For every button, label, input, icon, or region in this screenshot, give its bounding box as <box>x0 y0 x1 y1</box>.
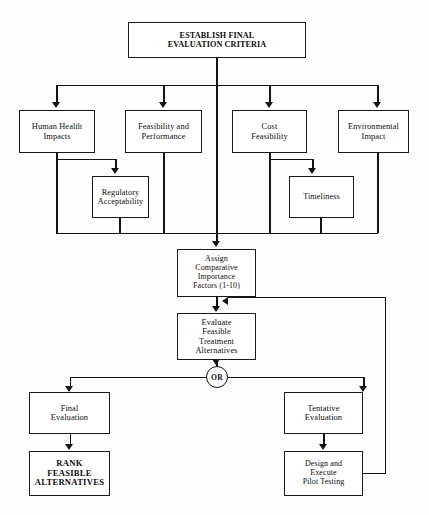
connector-drop-human-health <box>56 85 57 103</box>
node-establish-final-evaluation-criteria[interactable]: ESTABLISH FINALEVALUATION CRITERIA <box>128 22 306 58</box>
connector-drop-cost <box>269 85 270 103</box>
arrowhead-rank <box>65 444 73 450</box>
node-human-health-impacts[interactable]: Human HealthImpacts <box>19 110 95 153</box>
node-feasibility-and-performance[interactable]: Feasibility andPerformance <box>125 110 202 153</box>
connector-drop-feasibility <box>163 85 164 103</box>
connector-cost-to-timeliness <box>270 159 313 160</box>
flowchart-canvas: ESTABLISH FINALEVALUATION CRITERIA Human… <box>0 0 429 515</box>
node-environmental-impact[interactable]: EnvironmentalImpact <box>338 110 409 153</box>
node-timeliness[interactable]: Timeliness <box>289 176 354 218</box>
connector-cost-down <box>269 153 270 233</box>
node-environmental-label: EnvironmentalImpact <box>341 122 406 141</box>
node-or-gate[interactable]: OR <box>206 366 228 388</box>
connector-or-branch-right <box>228 377 364 378</box>
arrowhead-feasibility <box>159 102 167 108</box>
connector-feedback-riser <box>385 297 386 474</box>
connector-drop-environmental <box>377 85 378 103</box>
arrowhead-timeliness <box>308 168 316 174</box>
node-design-execute-label: Design andExecutePilot Testing <box>287 460 360 487</box>
node-feasibility-label: Feasibility andPerformance <box>128 122 199 141</box>
arrowhead-human-health <box>52 102 60 108</box>
node-rank-feasible-alternatives[interactable]: RANKFEASIBLEALTERNATIVES <box>29 451 110 496</box>
node-cost-label: CostFeasibility <box>235 122 304 141</box>
arrowhead-design <box>319 444 327 450</box>
node-tentative-evaluation-label: TentativeEvaluation <box>287 404 360 423</box>
connector-or-branch-left <box>70 377 206 378</box>
node-human-health-label: Human HealthImpacts <box>22 122 92 141</box>
node-regulatory-label: RegulatoryAcceptability <box>95 188 146 206</box>
node-design-execute-pilot-testing[interactable]: Design andExecutePilot Testing <box>284 451 363 496</box>
arrowhead-regulatory <box>111 168 119 174</box>
connector-establish-stem <box>216 58 217 85</box>
node-evaluate-feasible-treatment-alternatives[interactable]: EvaluateFeasibleTreatmentAlternatives <box>177 313 256 360</box>
node-regulatory-acceptability[interactable]: RegulatoryAcceptability <box>92 176 149 218</box>
node-assign-label: AssignComparativeImportanceFactors (1-10… <box>180 255 253 291</box>
connector-feasibility-down <box>163 153 164 233</box>
node-evaluate-label: EvaluateFeasibleTreatmentAlternatives <box>180 318 253 356</box>
node-or-label: OR <box>211 373 223 382</box>
arrowhead-cost <box>265 102 273 108</box>
connector-human-health-to-regulatory <box>57 159 116 160</box>
connector-feedback-out <box>363 473 386 474</box>
connector-human-health-down <box>56 153 57 233</box>
connector-center-passthrough <box>216 85 217 233</box>
connector-feedback-return <box>228 297 385 298</box>
node-assign-comparative-importance-factors[interactable]: AssignComparativeImportanceFactors (1-10… <box>177 249 256 297</box>
node-rank-label: RANKFEASIBLEALTERNATIVES <box>32 459 107 488</box>
connector-environmental-down <box>377 153 378 233</box>
node-final-evaluation[interactable]: FinalEvaluation <box>29 392 110 434</box>
node-final-evaluation-label: FinalEvaluation <box>32 404 107 423</box>
arrowhead-feedback-into-evaluate <box>222 297 228 305</box>
arrowhead-environmental <box>373 102 381 108</box>
arrowhead-evaluate <box>212 306 220 312</box>
connector-regulatory-down <box>119 218 120 233</box>
connector-timeliness-down <box>320 218 321 233</box>
node-timeliness-label: Timeliness <box>292 192 351 201</box>
node-cost-feasibility[interactable]: CostFeasibility <box>232 110 307 153</box>
node-tentative-evaluation[interactable]: TentativeEvaluation <box>284 392 363 434</box>
node-establish-label: ESTABLISH FINALEVALUATION CRITERIA <box>131 31 303 49</box>
arrowhead-assign <box>212 241 220 247</box>
